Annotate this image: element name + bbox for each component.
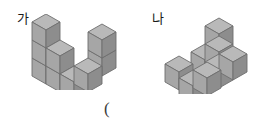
answer-parenthesis: ( [104,100,110,117]
figure-label-ga: 가 [17,12,29,25]
worksheet-canvas: 가 나 [0,0,259,129]
left-figure-svg [30,14,122,90]
left-figure-cube-stack [30,14,122,90]
right-figure-cube-stack [163,14,251,94]
right-figure-svg [163,14,251,94]
